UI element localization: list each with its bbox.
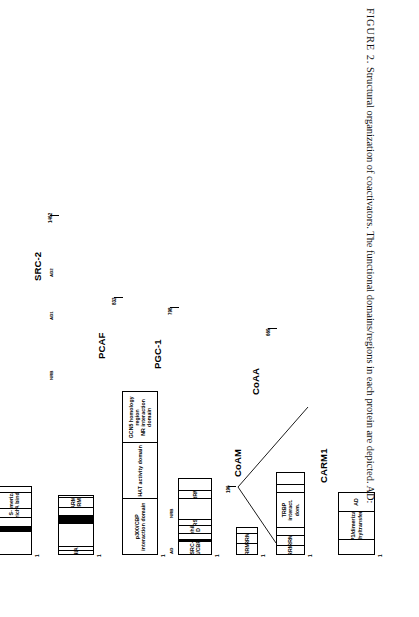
figure-caption-label: FIGURE 2. xyxy=(365,8,376,64)
figure-caption: FIGURE 2. Structural organization of coa… xyxy=(343,8,377,606)
figure-caption-text: Structural organization of coactivators.… xyxy=(365,67,376,503)
figure-page: GRIP1/dimerization/ methyltransferase AD… xyxy=(0,0,419,617)
